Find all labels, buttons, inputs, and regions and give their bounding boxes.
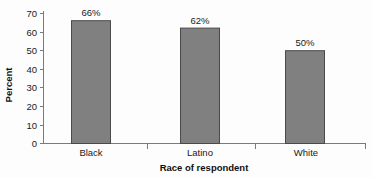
bar-chart: 70 60 50 40 30 20 10 0 Percent 66% 62% 5…: [0, 0, 372, 178]
y-axis-title: Percent: [3, 67, 14, 103]
bar-white[interactable]: [286, 51, 325, 144]
bar-value-label-latino: 62%: [190, 15, 210, 26]
x-axis-title: Race of respondent: [160, 162, 250, 173]
bar-value-label-black: 66%: [81, 7, 101, 18]
y-tick-label: 50: [26, 45, 37, 56]
y-tick-label: 60: [26, 27, 37, 38]
y-tick-label: 10: [26, 120, 37, 131]
y-tick-label: 20: [26, 101, 37, 112]
category-label-white: White: [294, 147, 318, 158]
bar-latino[interactable]: [181, 28, 220, 143]
bar-value-label-white: 50%: [295, 37, 315, 48]
category-label-latino: Latino: [187, 147, 213, 158]
y-tick-label: 30: [26, 82, 37, 93]
y-tick-label: 0: [32, 138, 37, 149]
y-tick-label: 40: [26, 64, 37, 75]
category-label-black: Black: [79, 147, 102, 158]
y-tick-label: 70: [26, 8, 37, 19]
chart-canvas: 70 60 50 40 30 20 10 0 Percent 66% 62% 5…: [0, 0, 372, 178]
bar-black[interactable]: [72, 21, 111, 144]
